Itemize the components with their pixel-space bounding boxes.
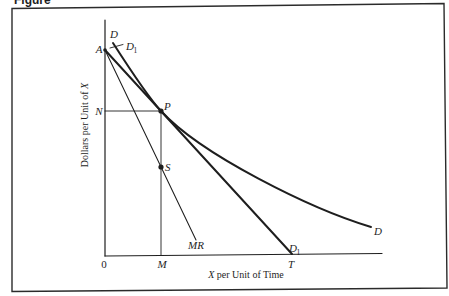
d1-label-top-subscript: 1 [134, 46, 138, 55]
point-t-label: T [288, 258, 295, 270]
point-s-label: S [165, 161, 171, 173]
page-background [0, 0, 449, 296]
figure-caption: Figure [14, 0, 51, 7]
d-curve-label-right: D [373, 225, 382, 237]
point-s-dot [158, 164, 163, 169]
economics-diagram: Figure D D 1 A N P S MR D 1 D 0 [0, 0, 449, 296]
x-axis-title: X per Unit of Time [207, 269, 284, 280]
y-axis-title: Dollars per Unit of X [79, 82, 90, 167]
point-a-dot [103, 48, 107, 52]
point-p-label: P [163, 100, 171, 112]
point-n-label: N [94, 105, 103, 117]
mr-label: MR [187, 239, 204, 251]
point-a-label: A [95, 43, 103, 55]
point-p-dot [158, 108, 163, 113]
d-curve-label-top: D [109, 28, 118, 40]
d1-label-bottom-subscript: 1 [297, 248, 301, 257]
y-axis-title-text: Dollars per Unit of [79, 89, 90, 167]
origin-label: 0 [101, 258, 107, 270]
x-axis-title-text: per Unit of Time [214, 269, 284, 280]
y-axis-title-variable: X [79, 82, 90, 90]
point-m-label: M [156, 258, 167, 270]
